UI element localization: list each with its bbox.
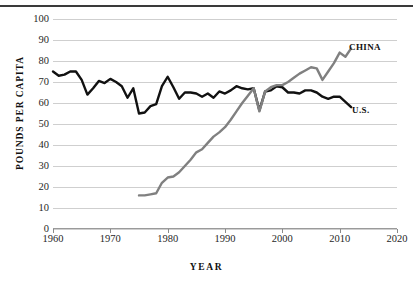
y-axis-title: POUNDS PER CAPITA bbox=[15, 38, 25, 188]
series-label-us: U.S. bbox=[352, 105, 370, 115]
series-line-china bbox=[139, 48, 351, 195]
series-label-china: CHINA bbox=[349, 42, 381, 52]
plot-area bbox=[53, 19, 397, 229]
y-tick-label-100: 100 bbox=[19, 14, 49, 25]
series-lines-svg bbox=[53, 19, 397, 229]
y-tick-label-10: 10 bbox=[19, 203, 49, 214]
top-divider-rule bbox=[0, 5, 413, 7]
x-tick-label-1980: 1980 bbox=[157, 233, 178, 245]
chart-figure: 0102030405060708090100 19601970198019902… bbox=[0, 0, 413, 284]
x-axis-tick-labels: 1960197019801990200020102020 bbox=[53, 233, 397, 249]
x-tick-label-1970: 1970 bbox=[100, 233, 121, 245]
x-tick-label-2020: 2020 bbox=[387, 233, 408, 245]
x-tick-label-1990: 1990 bbox=[215, 233, 236, 245]
x-tick-label-2000: 2000 bbox=[272, 233, 293, 245]
x-tick-label-2010: 2010 bbox=[329, 233, 350, 245]
x-tick-label-1960: 1960 bbox=[43, 233, 64, 245]
x-axis-title: YEAR bbox=[0, 262, 413, 272]
series-line-us bbox=[53, 72, 351, 114]
